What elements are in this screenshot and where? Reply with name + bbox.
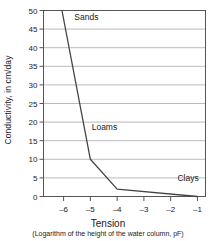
y-tick-label: 20 <box>29 118 38 127</box>
y-tick-label: 25 <box>29 100 38 109</box>
y-tick-label: 10 <box>29 155 38 164</box>
x-axis-title: Tension <box>0 218 216 229</box>
x-axis-subtitle: (Logarithm of the height of the water co… <box>0 230 216 237</box>
x-tick-label: –1 <box>193 205 202 214</box>
series-annotation: Loams <box>92 122 118 132</box>
y-axis-tick-labels: 05101520253035404550 <box>29 7 38 202</box>
y-tick-label: 15 <box>29 137 38 146</box>
series-annotation: Clays <box>177 173 198 183</box>
y-tick-label: 0 <box>33 193 38 202</box>
series-annotation: Sands <box>74 12 98 22</box>
series-annotations: SandsLoamsClays <box>74 12 198 183</box>
y-tick-label: 35 <box>29 62 38 71</box>
y-axis-ticks <box>40 11 44 197</box>
y-tick-label: 30 <box>29 81 38 90</box>
x-axis-tick-labels: –6–5–4–3–2–1 <box>59 205 202 214</box>
x-axis-ticks <box>64 197 198 202</box>
grid-lines <box>44 29 206 178</box>
y-tick-label: 40 <box>29 44 38 53</box>
chart-figure: Conductivity, in cm/day –6–5–4–3–2–1 051… <box>0 0 216 241</box>
x-tick-label: –4 <box>113 205 122 214</box>
x-tick-label: –3 <box>139 205 148 214</box>
y-tick-label: 5 <box>33 174 38 183</box>
chart-plot-area: –6–5–4–3–2–1 05101520253035404550 SandsL… <box>0 0 216 241</box>
y-tick-label: 45 <box>29 25 38 34</box>
x-tick-label: –2 <box>166 205 175 214</box>
y-tick-label: 50 <box>29 7 38 16</box>
x-tick-label: –5 <box>86 205 95 214</box>
x-tick-label: –6 <box>59 205 68 214</box>
